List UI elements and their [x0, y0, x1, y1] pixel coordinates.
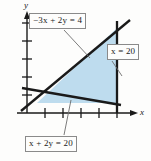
feasible-region-figure: y x −3x + 2y = 4 x = 20 x + 2y = 20	[0, 0, 151, 161]
leader-line-bottom	[64, 100, 71, 135]
y-axis-label: y	[24, 0, 28, 10]
x-axis-label: x	[140, 107, 144, 117]
callout-minus3x-plus-2y: −3x + 2y = 4	[29, 13, 86, 29]
callout-x-plus-2y: x + 2y = 20	[25, 136, 77, 152]
callout-x-equals-20: x = 20	[107, 44, 139, 60]
leader-line-top	[64, 30, 90, 58]
x-axis-arrowhead	[130, 110, 138, 116]
